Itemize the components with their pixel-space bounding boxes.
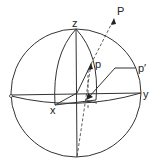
p-label: p [95,58,101,70]
p-prime-label: p′ [138,62,146,74]
x-label: x [50,104,56,116]
left-equator-marker [10,95,13,98]
P-label: P [117,5,124,17]
sphere-projection-diagram: z x y P p p′ [0,0,159,162]
z-label: z [72,17,78,29]
y-label: y [143,88,149,100]
P-arrowhead-icon [111,18,116,25]
